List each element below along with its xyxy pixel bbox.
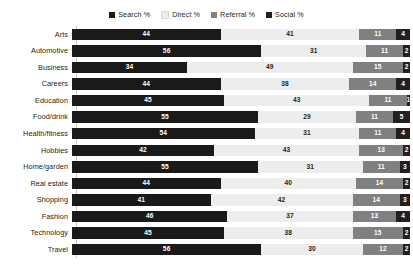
bar-segment[interactable]: 31 — [258, 161, 363, 173]
bar-segment[interactable]: 45 — [72, 95, 224, 107]
bar-segment[interactable]: 3 — [400, 161, 410, 173]
bar-segment[interactable]: 13 — [359, 145, 403, 157]
bar-segment-value: 15 — [374, 64, 382, 71]
bar-segment[interactable]: 12 — [363, 244, 404, 256]
bar-segment[interactable]: 2 — [403, 45, 410, 57]
bar-segment[interactable]: 41 — [72, 194, 211, 206]
bar-segment-value: 46 — [146, 213, 154, 220]
bar-segment[interactable]: 31 — [255, 128, 360, 140]
bar-segment[interactable]: 40 — [221, 178, 356, 190]
bar-segment[interactable]: 4 — [396, 78, 410, 90]
bar-segment-value: 31 — [310, 48, 318, 55]
stacked-bar: 4142143 — [72, 194, 410, 206]
bar-segment[interactable]: 5 — [393, 111, 410, 123]
bar-segment[interactable]: 14 — [356, 178, 403, 190]
bar-segment[interactable]: 2 — [403, 145, 410, 157]
chart-legend: Search %Direct %Referral %Social % — [0, 8, 413, 22]
bar-segment[interactable]: 54 — [72, 128, 255, 140]
bar-segment-value: 38 — [281, 81, 289, 88]
bar-segment-value: 45 — [144, 230, 152, 237]
bar-segment[interactable]: 2 — [403, 178, 410, 190]
bar-segment[interactable]: 11 — [363, 161, 400, 173]
legend-item[interactable]: Referral % — [211, 11, 255, 18]
bar-segment[interactable]: 55 — [72, 161, 258, 173]
bar-segment[interactable]: 15 — [353, 62, 404, 74]
square-swatch-icon — [211, 12, 217, 18]
chart-row: Shopping4142143 — [0, 192, 413, 209]
bar-segment-value: 14 — [376, 180, 384, 187]
bar-segment[interactable]: 45 — [72, 227, 224, 239]
bar-segment-value: 15 — [374, 230, 382, 237]
legend-item[interactable]: Direct % — [161, 11, 200, 19]
bar-segment[interactable]: 37 — [227, 211, 352, 223]
chart-row: Home/garden5531113 — [0, 159, 413, 176]
bar-segment[interactable]: 30 — [261, 244, 362, 256]
legend-item-label: Direct % — [172, 11, 200, 18]
bar-segment-value: 12 — [379, 246, 387, 253]
bar-segment-value: 2 — [405, 180, 409, 187]
chart-row: Arts4441114 — [0, 26, 413, 43]
bar-segment[interactable]: 15 — [353, 227, 404, 239]
bar-segment[interactable]: 42 — [211, 194, 353, 206]
bar-segment-value: 14 — [369, 81, 377, 88]
stacked-bar: 5631112 — [72, 45, 410, 57]
bar-segment[interactable]: 2 — [403, 244, 410, 256]
bar-segment[interactable]: 46 — [72, 211, 227, 223]
bar-segment[interactable]: 4 — [396, 128, 410, 140]
bar-segment-value: 38 — [285, 230, 293, 237]
bar-segment[interactable]: 44 — [72, 78, 221, 90]
bar-segment[interactable]: 11 — [359, 29, 396, 41]
bar-segment[interactable]: 43 — [224, 95, 369, 107]
legend-item[interactable]: Search % — [109, 11, 150, 18]
bar-segment-value: 55 — [161, 114, 169, 121]
legend-item[interactable]: Social % — [266, 11, 304, 18]
bar-segment[interactable]: 56 — [72, 45, 261, 57]
bar-segment[interactable]: 55 — [72, 111, 258, 123]
bar-segment-value: 44 — [143, 81, 151, 88]
bar-segment[interactable]: 11 — [366, 45, 403, 57]
stacked-bar-chart: Search %Direct %Referral %Social % Arts4… — [0, 0, 413, 270]
bar-segment[interactable]: 4 — [396, 211, 410, 223]
chart-row: Business3449152 — [0, 59, 413, 76]
bar-segment-value: 29 — [303, 114, 311, 121]
chart-plot-area: Arts4441114Automotive5631112Business3449… — [0, 26, 413, 262]
bar-segment[interactable]: 2 — [403, 227, 410, 239]
category-label: Travel — [0, 246, 72, 253]
bar-segment[interactable]: 44 — [72, 29, 221, 41]
bar-segment[interactable]: 56 — [72, 244, 261, 256]
bar-segment-value: 42 — [139, 147, 147, 154]
bar-segment-value: 41 — [138, 197, 146, 204]
bar-segment-value: 3 — [403, 164, 407, 171]
bar-segment[interactable]: 34 — [72, 62, 187, 74]
bar-segment[interactable]: 49 — [187, 62, 353, 74]
bar-segment[interactable]: 43 — [214, 145, 359, 157]
bar-segment[interactable]: 38 — [221, 78, 349, 90]
bar-segment-value: 42 — [278, 197, 286, 204]
bar-segment-value: 49 — [266, 64, 274, 71]
legend-item-label: Referral % — [220, 11, 255, 18]
chart-row: Automotive5631112 — [0, 43, 413, 60]
bar-segment[interactable]: 3 — [400, 194, 410, 206]
bar-segment-value: 55 — [161, 164, 169, 171]
bar-segment[interactable]: 14 — [349, 78, 396, 90]
bar-segment-value: 56 — [163, 246, 171, 253]
bar-segment[interactable]: 31 — [261, 45, 366, 57]
bar-segment[interactable]: 44 — [72, 178, 221, 190]
chart-row: Education4543111 — [0, 92, 413, 109]
bar-segment[interactable]: 13 — [353, 211, 397, 223]
bar-segment[interactable]: 1 — [407, 95, 410, 107]
stacked-bar: 4637134 — [72, 211, 410, 223]
stacked-bar: 5529115 — [72, 111, 410, 123]
bar-segment-value: 11 — [378, 164, 385, 171]
bar-segment[interactable]: 11 — [369, 95, 406, 107]
bar-segment[interactable]: 14 — [353, 194, 400, 206]
bar-segment-value: 4 — [401, 81, 405, 88]
bar-segment[interactable]: 2 — [403, 62, 410, 74]
bar-segment[interactable]: 11 — [356, 111, 393, 123]
bar-segment[interactable]: 11 — [359, 128, 396, 140]
bar-segment[interactable]: 4 — [396, 29, 410, 41]
bar-segment[interactable]: 42 — [72, 145, 214, 157]
bar-segment[interactable]: 41 — [221, 29, 360, 41]
bar-segment[interactable]: 29 — [258, 111, 356, 123]
bar-segment[interactable]: 38 — [224, 227, 352, 239]
